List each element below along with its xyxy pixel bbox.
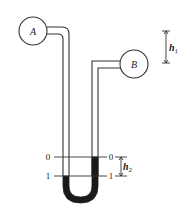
- manometer-diagram: A B 0 0 1 1 h1: [0, 0, 182, 211]
- u-bend-fluid: [63, 157, 98, 203]
- vessel-a: A: [19, 17, 47, 45]
- h2-label: h2: [123, 161, 133, 174]
- level-1-left-label: 1: [46, 171, 51, 181]
- vessel-a-label: A: [29, 26, 37, 37]
- level-0-left-label: 0: [46, 152, 51, 162]
- level-0-right-label: 0: [109, 152, 114, 162]
- vessel-b: B: [120, 50, 148, 78]
- level-line-1: 1 1: [46, 171, 114, 181]
- level-1-right-label: 1: [109, 171, 114, 181]
- h1-label: h1: [169, 42, 179, 55]
- level-line-0: 0 0: [46, 152, 114, 162]
- vessel-b-label: B: [131, 59, 137, 70]
